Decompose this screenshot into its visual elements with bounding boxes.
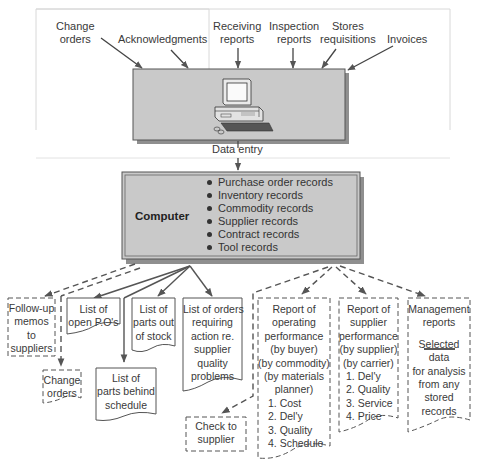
- input-label-stores-requisitions: Stores requisitions: [320, 20, 376, 46]
- input-label-receiving-reports: Receiving reports: [213, 20, 261, 46]
- supplier-performance-text: Report ofsupplierperformance(by supplier…: [339, 303, 398, 424]
- record-item: Supplier records: [205, 215, 333, 228]
- operating-performance-text: Report ofoperatingperformance(by buyer)(…: [258, 303, 330, 450]
- record-item: Inventory records: [205, 189, 333, 202]
- record-item: Tool records: [205, 241, 333, 254]
- record-item: Purchase order records: [205, 176, 333, 189]
- quality-problems-text: List of ordersrequiringaction re.supplie…: [183, 303, 242, 383]
- parts-out-of-stock-text: List ofparts outof stock: [132, 303, 175, 343]
- management-reports-text: Managementreports Selecteddatafor analys…: [408, 303, 470, 418]
- input-label-invoices: Invoices: [387, 33, 427, 46]
- open-pos-text: List ofopen P.O's: [67, 303, 120, 330]
- computer-title: Computer: [135, 210, 189, 222]
- check-supplier-text: Check tosupplier: [186, 420, 246, 447]
- parts-behind-schedule-text: List ofparts behindschedule: [96, 372, 156, 412]
- input-label-acknowledgments: Acknowledgments: [118, 33, 207, 46]
- change-orders-text: Changeorders: [43, 374, 81, 401]
- input-label-change-orders: Change orders: [56, 20, 95, 46]
- data-entry-label: Data entry: [212, 143, 263, 156]
- records-list: Purchase order records Inventory records…: [205, 176, 333, 254]
- record-item: Commodity records: [205, 202, 333, 215]
- input-label-inspection-reports: Inspection reports: [269, 20, 319, 46]
- record-item: Contract records: [205, 228, 333, 241]
- followup-memos-text: Follow-upmemostosuppliers: [8, 302, 55, 356]
